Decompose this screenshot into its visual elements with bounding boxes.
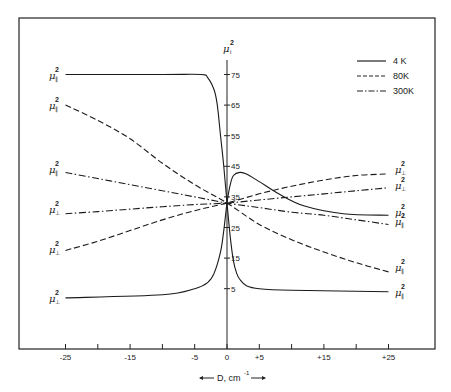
svg-text:⊥: ⊥ <box>55 250 60 256</box>
y-tick-label: 5 <box>231 285 236 294</box>
svg-text:2: 2 <box>401 283 405 290</box>
curve-end-label: μ2∥ <box>49 66 59 83</box>
left-curve-labels: μ2∥μ2∥μ2∥μ2⊥μ2⊥μ2⊥ <box>49 66 60 305</box>
x-tick-label: -5 <box>191 353 199 362</box>
svg-text:i: i <box>230 49 231 55</box>
curve-end-label: μ2⊥ <box>49 240 60 256</box>
y-tick-label: 65 <box>231 101 240 110</box>
x-tick-label: -25 <box>60 353 72 362</box>
svg-text:∥: ∥ <box>401 293 404 300</box>
y-tick-label: 75 <box>231 71 240 80</box>
y-tick-label: 45 <box>231 162 240 171</box>
x-tick-label: +15 <box>317 353 331 362</box>
chart-figure: μ 2 i 756555453525155 -25-15-50+5+15+25 … <box>0 0 451 392</box>
svg-text:2: 2 <box>401 176 405 183</box>
legend-label-80k: 80K <box>393 71 409 81</box>
svg-text:2: 2 <box>230 39 234 46</box>
curve-end-label: μ2⊥ <box>395 176 406 192</box>
x-axis-ticks: -25-15-50+5+15+25 <box>60 344 396 362</box>
svg-text:2: 2 <box>55 200 59 207</box>
svg-text:2: 2 <box>401 258 405 265</box>
x-tick-label: -15 <box>124 353 136 362</box>
curve-end-label: μ2⊥ <box>49 200 60 216</box>
right-curve-labels: μ2⊥μ2⊥μ2⊥μ2∥μ2∥μ2∥ <box>395 160 406 299</box>
svg-text:∥: ∥ <box>55 76 58 83</box>
x-axis-title: D, cm -1 <box>199 370 266 383</box>
svg-text:∥: ∥ <box>55 170 58 177</box>
y-tick-label: 25 <box>231 224 240 233</box>
x-tick-label: +5 <box>255 353 265 362</box>
svg-text:⊥: ⊥ <box>55 210 60 216</box>
svg-text:∥: ∥ <box>55 106 58 113</box>
curve-end-label: μ2∥ <box>395 258 405 275</box>
curve-end-label: μ2⊥ <box>395 160 406 176</box>
legend-label-300k: 300K <box>393 86 414 96</box>
y-tick-label: 55 <box>231 132 240 141</box>
svg-text:2: 2 <box>401 160 405 167</box>
y-tick-label: 35 <box>231 193 240 202</box>
legend: 4 K 80K 300K <box>357 56 414 96</box>
y-axis-ticks: 756555453525155 <box>224 71 240 294</box>
curve-end-label: μ2⊥ <box>49 289 60 305</box>
curve-end-label: μ2∥ <box>395 283 405 300</box>
svg-text:2: 2 <box>55 240 59 247</box>
svg-text:⊥: ⊥ <box>55 299 60 305</box>
svg-text:∥: ∥ <box>401 268 404 275</box>
svg-text:2: 2 <box>55 160 59 167</box>
svg-text:D, cm: D, cm <box>217 373 241 383</box>
svg-text:-1: -1 <box>244 370 250 376</box>
y-axis-title: μ 2 i <box>223 39 234 55</box>
svg-text:2: 2 <box>401 212 405 219</box>
curve-end-label: μ2∥ <box>49 96 59 113</box>
x-tick-label: +25 <box>382 353 396 362</box>
svg-text:2: 2 <box>401 203 405 210</box>
svg-text:2: 2 <box>55 96 59 103</box>
svg-text:⊥: ⊥ <box>401 186 406 192</box>
svg-text:∥: ∥ <box>401 222 404 229</box>
x-tick-label: 0 <box>225 353 230 362</box>
legend-label-4k: 4 K <box>393 56 407 66</box>
svg-text:2: 2 <box>55 289 59 296</box>
svg-text:μ: μ <box>223 43 230 54</box>
curve-end-label: μ2∥ <box>49 160 59 177</box>
svg-text:2: 2 <box>55 66 59 73</box>
